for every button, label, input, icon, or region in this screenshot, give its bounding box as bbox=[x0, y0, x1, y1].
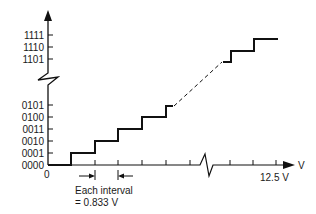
x-axis-arrow-icon bbox=[283, 161, 295, 169]
interval-note-line2: = 0.833 V bbox=[75, 197, 118, 208]
y-axis-arrow-icon bbox=[44, 10, 52, 21]
interval-note-line1: Each interval bbox=[75, 185, 133, 196]
y-label-0001: 0001 bbox=[22, 148, 45, 159]
interval-arrow-right-icon bbox=[89, 174, 95, 179]
x-ticks bbox=[95, 160, 276, 165]
dac-staircase-diagram: 1111 1110 1101 0101 0100 0011 0010 0001 … bbox=[0, 0, 316, 214]
x-origin-label: 0 bbox=[44, 169, 50, 180]
y-label-1101: 1101 bbox=[22, 54, 44, 65]
interval-arrow-left-icon bbox=[118, 174, 124, 179]
y-label-0011: 0011 bbox=[22, 124, 44, 135]
diagram-canvas: 1111 1110 1101 0101 0100 0011 0010 0001 … bbox=[0, 0, 316, 214]
staircase-upper bbox=[223, 39, 278, 62]
staircase-dashed-link bbox=[174, 62, 222, 106]
y-label-1111: 1111 bbox=[24, 30, 44, 41]
y-label-1110: 1110 bbox=[23, 42, 44, 53]
x-end-label: 12.5 V bbox=[260, 172, 289, 183]
y-label-0100: 0100 bbox=[22, 112, 45, 123]
y-ticks bbox=[48, 35, 53, 153]
interval-indicator bbox=[79, 170, 133, 180]
y-labels: 1111 1110 1101 0101 0100 0011 0010 0001 … bbox=[22, 30, 45, 171]
staircase-lower bbox=[48, 106, 173, 165]
y-label-0000: 0000 bbox=[22, 160, 45, 171]
y-label-0010: 0010 bbox=[22, 136, 45, 147]
x-axis-unit: V bbox=[298, 160, 305, 171]
y-label-0101: 0101 bbox=[22, 100, 45, 111]
